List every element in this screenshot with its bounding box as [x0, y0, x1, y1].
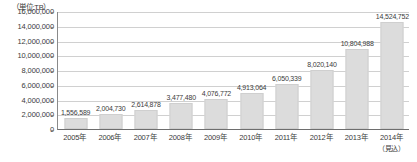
y-axis-tick — [51, 86, 54, 87]
bar — [205, 99, 228, 129]
bar — [99, 114, 122, 129]
x-axis-tick-label-text: 2009年 — [204, 133, 227, 142]
bar-group: 2,614,878 — [128, 12, 163, 129]
x-axis-labels: 2005年2006年2007年2008年2009年2010年2011年2012年… — [57, 133, 409, 161]
x-axis-tick-label-text: 2012年 — [310, 133, 333, 142]
bar — [134, 110, 157, 129]
y-axis-tick-label: 2,000,000 — [22, 111, 54, 119]
x-axis-tick-label-text: 2008年 — [169, 133, 192, 142]
x-axis-tick-label-text: 2014年 — [380, 133, 403, 142]
y-axis-tick — [51, 42, 54, 43]
x-axis-tick-label-text: 2007年 — [134, 133, 157, 142]
x-axis-tick-label-text: 2011年 — [275, 133, 297, 142]
x-axis-tick-label: 2013年 — [345, 133, 368, 143]
bar — [381, 22, 404, 129]
bar-group: 1,556,589 — [58, 12, 93, 129]
x-axis-tick-label-text: 2013年 — [345, 133, 368, 142]
bar-value-label: 4,076,772 — [202, 90, 231, 98]
plot-area: 1,556,5892,004,7302,614,8783,477,4804,07… — [57, 12, 409, 130]
y-axis-tick — [51, 56, 54, 57]
bar-value-label: 6,050,339 — [272, 75, 301, 83]
y-axis-tick — [51, 12, 54, 13]
bar-value-label: 3,477,480 — [167, 94, 196, 102]
x-axis-tick-label-text: 2005年 — [63, 133, 86, 142]
y-axis-tick-label: 10,000,000 — [17, 52, 54, 60]
bar — [240, 93, 263, 129]
bar-group: 4,913,064 — [234, 12, 269, 129]
bar-value-label: 2,004,730 — [96, 105, 125, 113]
bar — [170, 103, 193, 129]
bar-group: 4,076,772 — [199, 12, 234, 129]
bar — [310, 70, 333, 129]
y-axis-tick-label: 14,000,000 — [17, 23, 54, 31]
bar-group: 3,477,480 — [164, 12, 199, 129]
y-axis-tick-label: 16,000,000 — [17, 8, 54, 16]
y-axis-tick — [51, 71, 54, 72]
bar-group: 6,050,339 — [269, 12, 304, 129]
x-axis-tick-label-text: 2006年 — [98, 133, 121, 142]
bar — [64, 118, 87, 129]
y-axis-tick-label: 12,000,000 — [17, 38, 54, 46]
y-axis-tick-label: 4,000,000 — [22, 97, 54, 105]
x-axis-tick-label: 2006年 — [98, 133, 121, 143]
y-axis-tick-label: 8,000,000 — [22, 67, 54, 75]
bar-value-label: 4,913,064 — [237, 84, 266, 92]
y-axis-tick — [51, 27, 54, 28]
y-axis-tick — [51, 101, 54, 102]
bar-value-label: 2,614,878 — [131, 101, 160, 109]
bar-series: 1,556,5892,004,7302,614,8783,477,4804,07… — [58, 12, 409, 129]
bar-value-label: 10,804,988 — [341, 40, 374, 48]
x-axis-tick-label: 2008年 — [169, 133, 192, 143]
x-axis-tick-label-text: 2010年 — [239, 133, 262, 142]
x-axis-tick-label: 2012年 — [310, 133, 333, 143]
bar-group: 10,804,988 — [340, 12, 375, 129]
bar-group: 8,020,140 — [304, 12, 339, 129]
x-axis-tick-label: 2007年 — [134, 133, 157, 143]
bar — [275, 84, 298, 129]
y-axis-tick-label: 6,000,000 — [22, 82, 54, 90]
x-axis-tick-label-note: （見込） — [378, 144, 405, 153]
y-axis-tick — [51, 115, 54, 116]
y-axis-labels: 16,000,00014,000,00012,000,00010,000,000… — [0, 12, 54, 130]
bar-chart: （単位:TB） 16,000,00014,000,00012,000,00010… — [0, 0, 417, 162]
bar-value-label: 14,524,752 — [376, 13, 409, 21]
x-axis-tick-label: 2010年 — [239, 133, 262, 143]
bar-group: 14,524,752 — [375, 12, 410, 129]
bar — [346, 49, 369, 129]
y-axis-tick — [51, 130, 54, 131]
bar-group: 2,004,730 — [93, 12, 128, 129]
bar-value-label: 1,556,589 — [61, 109, 90, 117]
bar-value-label: 8,020,140 — [307, 61, 336, 69]
x-axis-tick-label: 2014年（見込） — [378, 133, 405, 153]
x-axis-tick-label: 2009年 — [204, 133, 227, 143]
x-axis-tick-label: 2011年 — [275, 133, 297, 143]
x-axis-tick-label: 2005年 — [63, 133, 86, 143]
